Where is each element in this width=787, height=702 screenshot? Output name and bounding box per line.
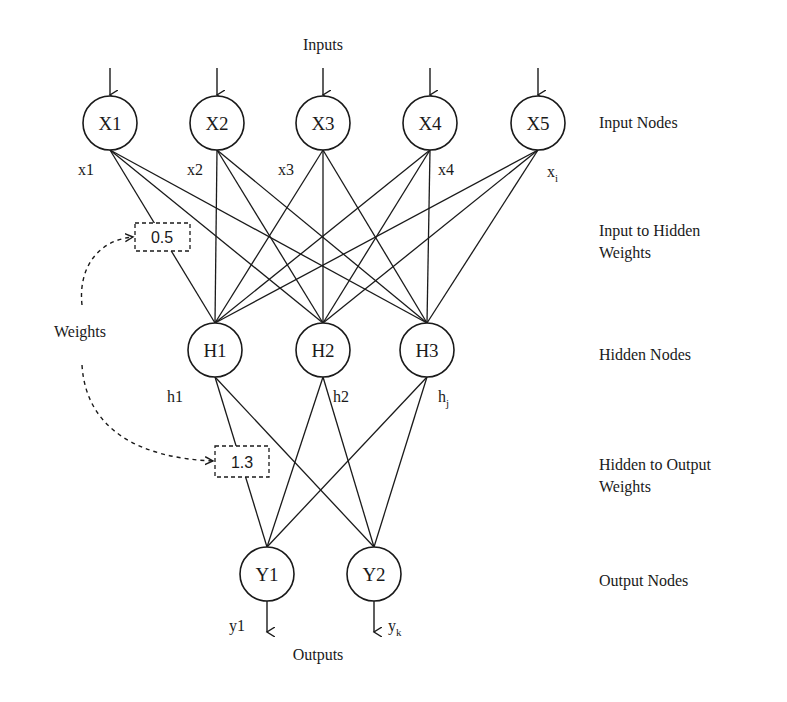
weight-value: 1.3: [231, 454, 253, 471]
var-label-x5: xi: [547, 163, 558, 184]
node-label: X2: [205, 113, 228, 134]
output-arrows: [267, 601, 374, 632]
input-node-x2: X2: [190, 96, 244, 150]
node-label: Y1: [255, 564, 278, 585]
var-label-h3: hj: [438, 388, 449, 409]
hidden-node-h3: H3: [400, 323, 454, 377]
weights-label: Weights: [54, 323, 106, 341]
layer-label: Hidden Nodes: [599, 346, 691, 363]
node-label: H2: [311, 340, 334, 361]
node-label: H3: [415, 340, 438, 361]
output-node-y1: Y1: [240, 547, 294, 601]
input-node-x1: X1: [83, 96, 137, 150]
var-label-x2: x2: [187, 161, 203, 178]
weight-box-input-hidden: 0.5: [135, 223, 190, 251]
node-label: X5: [526, 113, 549, 134]
var-label-x4: x4: [438, 161, 454, 178]
var-label-h2: h2: [333, 388, 349, 405]
layer-label: Input Nodes: [599, 114, 678, 132]
var-label-h1: h1: [167, 388, 183, 405]
nodes: X1X2X3X4X5H1H2H3Y1Y2: [83, 96, 565, 601]
weight-value: 0.5: [151, 229, 173, 246]
input-node-x4: X4: [403, 96, 457, 150]
layer-label: Output Nodes: [599, 572, 688, 590]
inputs-title: Inputs: [303, 36, 343, 54]
var-label-x3: x3: [278, 161, 294, 178]
var-label-y1: y1: [229, 617, 245, 635]
layer-label: Hidden to OutputWeights: [599, 456, 712, 496]
node-label: X1: [98, 113, 121, 134]
output-node-y2: Y2: [347, 547, 401, 601]
edge-H3-Y2: [374, 377, 427, 547]
dashed-arrow-up: [81, 237, 133, 305]
neural-network-diagram: Inputs 0.5 1.3 Weights X1X2X3X4X5H1H2H3Y…: [0, 0, 787, 702]
dashed-arrow-down: [82, 365, 213, 461]
node-label: X4: [418, 113, 442, 134]
hidden-node-h2: H2: [296, 323, 350, 377]
input-arrows: [110, 68, 538, 95]
edge-X5-H1: [215, 150, 538, 323]
var-label-y2: yk: [388, 617, 402, 638]
outputs-title: Outputs: [293, 646, 344, 664]
input-node-x3: X3: [296, 96, 350, 150]
layer-labels: Input NodesInput to HiddenWeightsHidden …: [599, 114, 712, 590]
hidden-node-h1: H1: [188, 323, 242, 377]
node-label: X3: [311, 113, 334, 134]
var-label-x1: x1: [78, 161, 94, 178]
layer-label: Input to HiddenWeights: [599, 222, 700, 262]
edge-X5-H2: [323, 150, 538, 323]
node-label: Y2: [362, 564, 385, 585]
input-node-x5: X5: [511, 96, 565, 150]
weight-box-hidden-output: 1.3: [215, 446, 269, 477]
node-label: H1: [203, 340, 226, 361]
edge-H2-Y1: [267, 377, 323, 547]
